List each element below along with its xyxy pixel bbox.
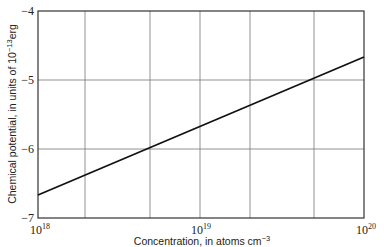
grid-vertical [85,11,314,218]
y-tick: −4 [21,4,34,18]
x-axis-label: Concentration, in atoms cm−3 [134,234,270,247]
y-tick: −5 [21,73,34,87]
y-axis-label: Chemical potential, in units of 10−13erg [5,24,18,204]
grid-horizontal [38,80,364,149]
data-line [38,57,364,195]
y-axis-ticks: −4 −5 −6 −7 [21,4,34,225]
y-tick: −6 [21,142,34,156]
x-tick: 1020 [356,222,376,237]
x-tick: 1018 [30,222,50,237]
plot-frame [38,11,364,218]
chart: −4 −5 −6 −7 1018 1019 1020 Concentration… [0,0,384,247]
